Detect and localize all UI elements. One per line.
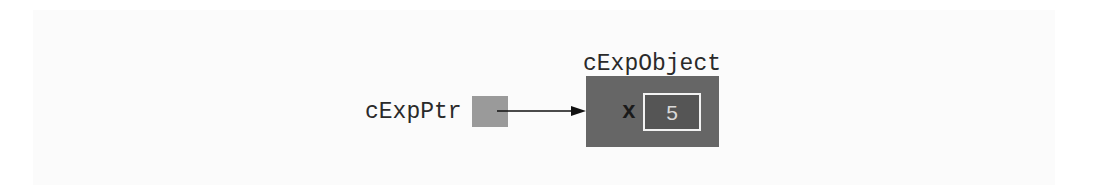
figure-panel <box>33 10 1055 185</box>
field-value: 5 <box>666 102 678 123</box>
arrow-icon <box>497 104 587 118</box>
field-value-box: 5 <box>643 93 701 131</box>
field-name: x <box>622 101 636 124</box>
object-title: cExpObject <box>583 53 721 76</box>
pointer-label: cExpPtr <box>365 101 462 124</box>
